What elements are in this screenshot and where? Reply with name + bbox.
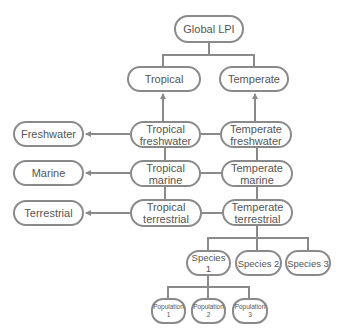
node-label: Temperate marine: [231, 162, 283, 186]
node-species-3: Species 3: [285, 250, 331, 276]
node-label: Population 2: [193, 303, 224, 319]
node-label: Population 3: [235, 303, 266, 319]
node-global-lpi: Global LPI: [174, 15, 244, 43]
node-label: Species 2: [238, 258, 280, 269]
node-label: Marine: [32, 167, 66, 179]
node-label: Tropical marine: [146, 162, 185, 186]
node-species-1: Species 1: [186, 250, 231, 276]
node-label: Species 1: [188, 252, 229, 274]
node-population-1: Population 1: [151, 298, 186, 324]
node-label: Temperate terrestrial: [232, 201, 284, 225]
node-label: Freshwater: [21, 128, 76, 140]
connector-populations: [168, 275, 249, 298]
node-marine: Marine: [13, 160, 84, 186]
node-label: Tropical: [145, 73, 184, 85]
node-label: Species 3: [287, 258, 329, 269]
node-tropical-marine: Tropical marine: [130, 160, 201, 187]
node-temperate-freshwater: Temperate freshwater: [220, 121, 292, 148]
node-label: Global LPI: [183, 23, 234, 35]
node-label: Tropical terrestrial: [143, 201, 189, 225]
node-tropical-terrestrial: Tropical terrestrial: [130, 199, 202, 227]
node-freshwater: Freshwater: [13, 121, 84, 147]
node-temperate-terrestrial: Temperate terrestrial: [222, 199, 293, 226]
connector-species: [208, 225, 308, 250]
node-label: Tropical freshwater: [140, 123, 191, 147]
connector-global-children: [163, 43, 254, 66]
node-population-3: Population 3: [232, 298, 268, 324]
node-tropical-freshwater: Tropical freshwater: [130, 121, 201, 148]
node-population-2: Population 2: [191, 298, 226, 324]
node-label: Temperate: [228, 73, 280, 85]
node-temperate: Temperate: [219, 66, 289, 92]
node-tropical: Tropical: [127, 66, 201, 92]
node-label: Temperate freshwater: [230, 123, 282, 147]
node-species-2: Species 2: [235, 250, 282, 276]
node-label: Terrestrial: [24, 207, 72, 219]
node-label: Population 1: [153, 303, 184, 319]
node-terrestrial: Terrestrial: [13, 200, 84, 226]
node-temperate-marine: Temperate marine: [221, 160, 293, 187]
